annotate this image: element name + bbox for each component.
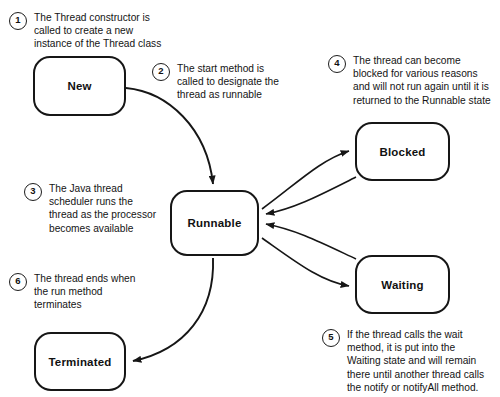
note-text-6: The thread ends when the run method term… — [34, 272, 135, 312]
edge-new-to-runnable — [126, 88, 213, 184]
annotation-3: 3 The Java thread scheduler runs the thr… — [24, 182, 189, 235]
edge-waiting-to-runnable — [266, 224, 356, 259]
state-node-blocked[interactable]: Blocked — [355, 122, 450, 181]
state-label-waiting: Waiting — [381, 279, 424, 291]
note-text-1: The Thread constructor is called to crea… — [34, 11, 161, 51]
edge-blocked-to-runnable — [266, 177, 356, 214]
note-number-badge-5: 5 — [322, 329, 340, 347]
annotation-2: 2 The start method is called to designat… — [152, 62, 312, 102]
state-label-new: New — [67, 80, 91, 92]
thread-state-diagram: New Runnable Blocked Waiting Terminated … — [0, 0, 500, 397]
note-number-badge-4: 4 — [328, 55, 346, 73]
edge-runnable-to-blocked — [262, 151, 349, 209]
state-label-blocked: Blocked — [379, 146, 425, 158]
state-node-terminated[interactable]: Terminated — [34, 332, 126, 391]
annotation-4: 4 The thread can become blocked for vari… — [328, 54, 500, 107]
note-text-4: The thread can become blocked for variou… — [353, 54, 491, 107]
edge-runnable-to-waiting — [262, 238, 349, 286]
note-text-2: The start method is called to designate … — [177, 62, 279, 102]
annotation-1: 1 The Thread constructor is called to cr… — [9, 11, 199, 51]
annotation-6: 6 The thread ends when the run method te… — [9, 272, 174, 312]
state-label-runnable: Runnable — [188, 217, 242, 229]
annotation-5: 5 If the thread calls the wait method, i… — [322, 328, 500, 394]
state-node-new[interactable]: New — [33, 56, 126, 116]
note-number-badge-3: 3 — [24, 183, 42, 201]
note-text-5: If the thread calls the wait method, it … — [347, 328, 484, 394]
note-number-badge-6: 6 — [9, 273, 27, 291]
note-text-3: The Java thread scheduler runs the threa… — [49, 182, 156, 235]
note-number-badge-1: 1 — [9, 12, 27, 30]
state-label-terminated: Terminated — [48, 356, 111, 368]
state-node-waiting[interactable]: Waiting — [355, 255, 450, 314]
note-number-badge-2: 2 — [152, 63, 170, 81]
